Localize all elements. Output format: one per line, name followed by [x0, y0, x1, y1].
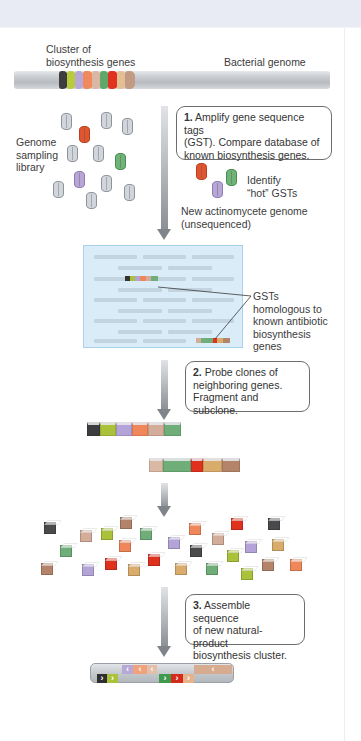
step-2-number: 2.	[193, 366, 202, 378]
gene-arrow-right-icon: ›	[97, 674, 107, 683]
step-3-number: 3.	[193, 599, 202, 611]
subclone-cube	[241, 568, 253, 580]
subclone-cube	[41, 563, 53, 575]
fragment-block	[148, 422, 164, 436]
fragment-block	[132, 422, 148, 436]
fragment-strip-1	[87, 422, 181, 436]
subclone-cube	[212, 533, 224, 545]
flow-arrow-4-shaft	[161, 587, 168, 647]
fragment-block	[222, 458, 240, 472]
gene-arrow-right-icon: ›	[159, 674, 171, 683]
flow-arrow-4-head	[157, 646, 171, 657]
step-3-line2: of new natural-product	[193, 624, 297, 649]
subclone-cube	[60, 545, 72, 557]
subclone-cube	[148, 554, 160, 566]
flow-arrow-3-shaft	[161, 483, 168, 508]
gst-line4: biosynthesis	[253, 328, 328, 341]
subclone-cube	[227, 550, 239, 562]
subclone-cube	[168, 537, 180, 549]
flow-arrow-2-shaft	[161, 360, 168, 410]
subclone-cube	[105, 558, 117, 570]
subclone-cube	[120, 517, 132, 529]
subclone-cube	[119, 540, 131, 552]
subclone-cube	[206, 563, 218, 575]
subclone-cube	[101, 528, 113, 540]
subclone-cube	[189, 523, 201, 535]
gsts-homologous-label: GSTs homologous to known antibiotic bios…	[253, 290, 328, 353]
fragment-block	[87, 422, 100, 436]
flow-arrow-3-head	[157, 506, 171, 517]
step-3-line1: Assemble sequence	[193, 599, 250, 624]
gene-arrow-left-icon: ‹	[133, 665, 147, 674]
fragment-block	[163, 458, 191, 472]
gene-arrow-right-icon: ›	[171, 674, 183, 683]
step-2-box: 2. Probe clones of neighboring genes. Fr…	[185, 361, 310, 412]
gst-line5: genes	[253, 340, 328, 353]
subclone-cube	[272, 539, 284, 551]
fragment-strip-2	[149, 458, 240, 472]
step-2-line3: Fragment and subclone.	[193, 391, 302, 416]
subclone-cube	[128, 564, 140, 576]
fragment-block	[164, 422, 181, 436]
subclone-cube	[231, 518, 243, 530]
fragment-block	[100, 422, 116, 436]
subclone-cube	[140, 528, 152, 540]
subclone-cube	[290, 559, 302, 571]
fragment-block	[191, 458, 203, 472]
gst-line2: homologous to	[253, 303, 328, 316]
step-3-box: 3. Assemble sequence of new natural-prod…	[185, 594, 305, 645]
subclone-cube	[268, 518, 280, 530]
fragment-block	[116, 422, 132, 436]
gst-line3: known antibiotic	[253, 315, 328, 328]
fragment-block	[203, 458, 222, 472]
subclone-cube	[245, 541, 257, 553]
gene-arrow-left-icon: ‹	[147, 665, 157, 674]
step-3-line3: biosynthesis cluster.	[193, 649, 297, 662]
subclone-cube	[175, 563, 187, 575]
fragment-block	[149, 458, 163, 472]
subclone-cube	[80, 530, 92, 542]
subclone-cube	[82, 564, 94, 576]
gst-line1: GSTs	[253, 290, 328, 303]
subclone-cube	[262, 559, 274, 571]
gene-arrow-right-icon: ›	[107, 674, 118, 683]
subclone-cube	[190, 545, 202, 557]
gene-arrow-left-icon: ‹	[194, 665, 232, 674]
step-2-line2: neighboring genes.	[193, 379, 302, 392]
gene-arrow-left-icon: ‹	[122, 665, 133, 674]
gene-arrow-right-icon: ›	[183, 674, 194, 683]
step-2-line1: Probe clones of	[202, 366, 278, 378]
subclone-cube	[44, 522, 56, 534]
assembled-cluster: ‹ ‹ ‹ ‹ › › › › ›	[90, 663, 234, 683]
flow-arrow-2-head	[157, 409, 171, 420]
